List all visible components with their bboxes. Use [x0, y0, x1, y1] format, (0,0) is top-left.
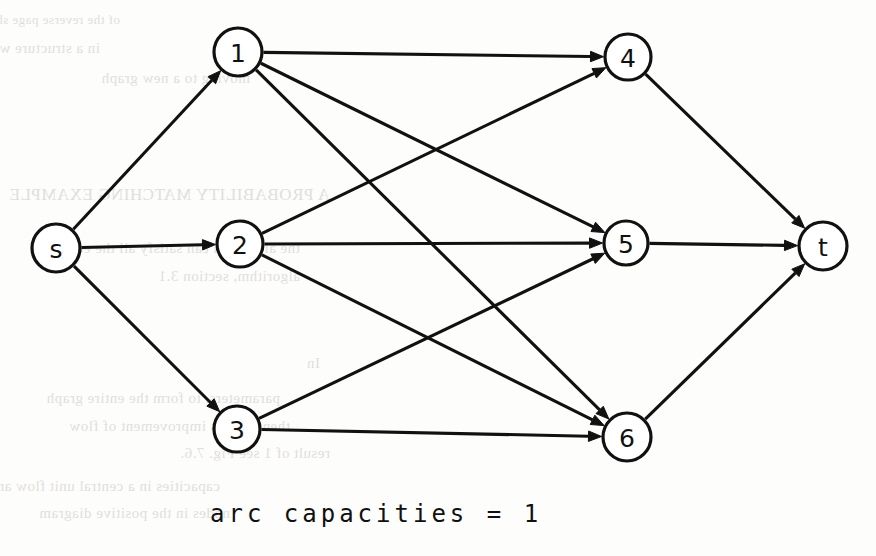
- edge-line: [265, 243, 590, 244]
- figure-caption: arc capacities = 1: [210, 500, 542, 528]
- arrow-head-icon: [591, 222, 605, 232]
- graph-edge-1-to-4: [264, 51, 604, 61]
- graph-node-6[interactable]: 6: [603, 413, 651, 461]
- edge-line: [645, 273, 795, 419]
- graph-edge-2-to-6: [262, 255, 604, 426]
- graph-node-2[interactable]: 2: [217, 221, 263, 267]
- edge-line: [261, 430, 588, 437]
- graph-node-5[interactable]: 5: [604, 221, 648, 265]
- graph-node-4[interactable]: 4: [605, 34, 651, 80]
- edge-line: [81, 245, 202, 248]
- node-label: 4: [620, 44, 636, 73]
- graph-node-1[interactable]: 1: [214, 28, 262, 76]
- graph-edge-4-to-t: [646, 74, 805, 228]
- arrow-head-icon: [591, 253, 605, 263]
- edge-line: [261, 63, 593, 227]
- arrow-head-icon: [592, 68, 606, 78]
- network-flow-diagram: s123456t: [0, 0, 876, 556]
- graph-edge-3-to-6: [261, 430, 601, 442]
- arrow-head-icon: [784, 240, 797, 250]
- edge-line: [650, 243, 785, 245]
- edge-line: [264, 52, 591, 56]
- node-label: 1: [230, 39, 246, 68]
- arrow-head-icon: [202, 240, 215, 250]
- graph-svg: s123456t: [0, 0, 876, 556]
- graph-node-3[interactable]: 3: [214, 406, 260, 452]
- node-label: 3: [229, 416, 245, 445]
- edge-line: [646, 74, 796, 219]
- graph-edge-6-to-t: [645, 264, 804, 419]
- arrow-head-icon: [590, 51, 603, 61]
- node-label: 2: [232, 231, 248, 260]
- arrow-head-icon: [588, 431, 601, 441]
- node-label: s: [49, 235, 62, 264]
- arrow-head-icon: [589, 238, 602, 248]
- graph-edge-5-to-t: [650, 240, 798, 250]
- edge-line: [74, 266, 210, 402]
- graph-edge-s-to-2: [81, 240, 215, 250]
- graph-node-s[interactable]: s: [32, 224, 80, 272]
- graph-edge-s-to-1: [73, 71, 220, 230]
- edge-line: [262, 73, 594, 233]
- edge-line: [256, 70, 600, 410]
- graph-edge-1-to-5: [261, 63, 605, 232]
- node-label: t: [818, 233, 828, 262]
- edge-line: [73, 80, 211, 229]
- graph-node-t[interactable]: t: [799, 222, 847, 270]
- node-label: 5: [618, 230, 634, 259]
- figure-page: of the reverse page showing throughin a …: [0, 0, 876, 556]
- node-label: 6: [619, 424, 635, 453]
- graph-edge-s-to-3: [74, 266, 220, 412]
- edges-group: [73, 51, 804, 441]
